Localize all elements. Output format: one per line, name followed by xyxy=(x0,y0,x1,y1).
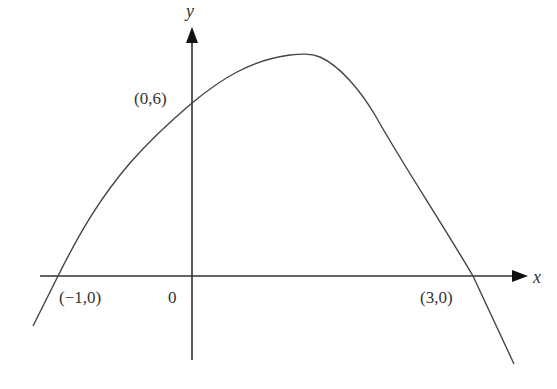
function-sketch: y x (0,6) (−1,0) 0 (3,0) xyxy=(0,0,557,389)
point-label-0-6: (0,6) xyxy=(134,89,167,108)
y-axis-label: y xyxy=(184,1,194,21)
function-curve xyxy=(33,54,514,364)
y-axis-arrow-icon xyxy=(186,27,198,43)
point-label-3-0: (3,0) xyxy=(420,288,453,307)
point-label-neg1-0: (−1,0) xyxy=(59,288,101,307)
origin-label: 0 xyxy=(168,288,177,307)
x-axis-label: x xyxy=(532,267,541,287)
x-axis-arrow-icon xyxy=(512,270,528,282)
